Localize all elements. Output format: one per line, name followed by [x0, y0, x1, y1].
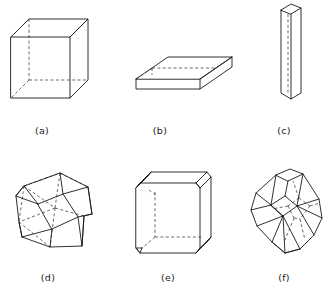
- figure-b-tabular-plate: [136, 57, 232, 89]
- figure-a-visible-edges: [11, 19, 88, 98]
- figure-e-visible-edges: [136, 172, 211, 253]
- figure-a-cube: [11, 19, 88, 98]
- figure-e-caption: (e): [161, 272, 175, 283]
- figure-c-visible-edges: [281, 4, 301, 99]
- figure-plate-svg: (a) (b): [0, 0, 327, 293]
- figure-c-elongated-prism: [281, 4, 301, 99]
- figure-f-visible-edges: [251, 169, 322, 253]
- figure-f-truncated-octahedron: [251, 169, 322, 253]
- figure-b-visible-edges: [136, 57, 232, 89]
- figure-b-hidden-edges: [136, 68, 216, 79]
- figure-e-hidden-edges: [142, 190, 203, 248]
- figure-b-caption: (b): [153, 125, 167, 136]
- crystal-habit-figure-plate: (a) (b): [0, 0, 327, 293]
- figure-d-caption: (d): [41, 272, 55, 283]
- figure-d-cuboctahedron: [16, 173, 92, 247]
- figure-a-caption: (a): [35, 125, 49, 136]
- figure-e-truncated-cube: [136, 172, 211, 253]
- figure-d-visible-edges: [16, 173, 92, 247]
- figure-f-caption: (f): [278, 272, 290, 283]
- figure-c-caption: (c): [277, 125, 291, 136]
